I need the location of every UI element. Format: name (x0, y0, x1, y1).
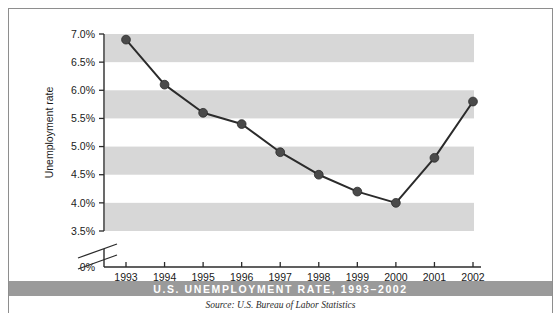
y-axis: 3.5%4.0%4.5%5.0%5.5%6.0%6.5%7.0%0% (71, 28, 104, 273)
svg-text:2001: 2001 (423, 271, 447, 281)
svg-text:4.5%: 4.5% (71, 168, 95, 180)
plot-area: 3.5%4.0%4.5%5.0%5.5%6.0%6.5%7.0%0% 19931… (9, 9, 554, 281)
series-line-unemployment-rate (126, 40, 473, 203)
svg-text:6.0%: 6.0% (71, 84, 95, 96)
svg-text:7.0%: 7.0% (71, 28, 95, 40)
svg-text:1998: 1998 (307, 271, 331, 281)
svg-text:3.5%: 3.5% (71, 225, 95, 237)
svg-text:1994: 1994 (153, 271, 177, 281)
svg-text:4.0%: 4.0% (71, 197, 95, 209)
svg-text:1997: 1997 (269, 271, 293, 281)
y-axis-title: Unemployment rate (43, 87, 55, 179)
chart-title: U.S. UNEMPLOYMENT RATE, 1993–2002 (153, 283, 408, 295)
svg-text:1995: 1995 (191, 271, 215, 281)
data-point (469, 97, 478, 106)
line-chart: 3.5%4.0%4.5%5.0%5.5%6.0%6.5%7.0%0% 19931… (9, 9, 554, 281)
svg-text:1993: 1993 (114, 271, 138, 281)
data-point (237, 120, 246, 129)
svg-text:2000: 2000 (384, 271, 408, 281)
data-point (160, 80, 169, 89)
svg-text:5.0%: 5.0% (71, 140, 95, 152)
svg-text:1996: 1996 (230, 271, 254, 281)
svg-text:0%: 0% (80, 261, 95, 273)
svg-text:2002: 2002 (461, 271, 485, 281)
data-point (276, 148, 285, 157)
data-point (353, 187, 362, 196)
svg-text:6.5%: 6.5% (71, 56, 95, 68)
data-point (122, 35, 131, 44)
svg-text:1999: 1999 (346, 271, 370, 281)
chart-source-band: Source: U.S. Bureau of Labor Statistics (9, 296, 552, 313)
svg-text:5.5%: 5.5% (71, 112, 95, 124)
chart-title-band: U.S. UNEMPLOYMENT RATE, 1993–2002 (9, 281, 552, 296)
data-point (391, 198, 400, 207)
data-point (314, 170, 323, 179)
x-axis: 1993199419951996199719981999200020012002 (104, 262, 485, 281)
figure-container: 3.5%4.0%4.5%5.0%5.5%6.0%6.5%7.0%0% 19931… (8, 8, 553, 313)
chart-source-text: Source: U.S. Bureau of Labor Statistics (206, 300, 356, 310)
background-bands (105, 34, 474, 231)
data-point (199, 108, 208, 117)
data-point (430, 153, 439, 162)
